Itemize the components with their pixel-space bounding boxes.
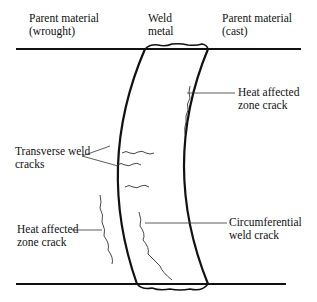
haz-crack-left [100,195,113,264]
label-parent-cast: Parent material (cast) [222,12,292,38]
label-transverse-cracks: Transverse weld cracks [15,145,90,171]
label-parent-wrought: Parent material (wrought) [29,12,99,38]
label-haz-crack-left: Heat affected zone crack [17,223,78,249]
label-weld-metal: Weld metal [148,12,174,38]
transverse-crack-3 [125,185,149,188]
transverse-crack-1 [122,151,154,154]
label-circumferential-crack: Circumferential weld crack [229,216,302,242]
circumferential-crack [139,212,172,280]
weld-right-boundary [184,49,208,284]
weld-left-boundary [118,49,145,284]
label-haz-crack-right: Heat affected zone crack [238,86,299,112]
transverse-crack-2 [117,163,141,166]
